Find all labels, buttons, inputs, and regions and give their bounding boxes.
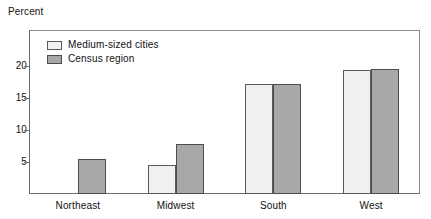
y-axis-tick-mark [24, 66, 30, 67]
y-axis-tick-mark [24, 130, 30, 131]
legend-item: Census region [47, 53, 159, 65]
bar [371, 69, 399, 194]
legend-swatch-icon [47, 41, 62, 50]
bar-chart-figure: Percent 5101520 NortheastMidwestSouthWes… [0, 0, 431, 219]
x-axis-category-label: West [322, 199, 420, 212]
bar [343, 70, 371, 194]
bar [148, 165, 176, 194]
legend-swatch-icon [47, 55, 62, 64]
x-axis-category-label: South [225, 199, 323, 212]
y-axis-title: Percent [8, 6, 44, 18]
legend-item-label: Census region [68, 53, 134, 65]
y-axis-tick-mark [24, 98, 30, 99]
x-axis-category-label: Midwest [127, 199, 225, 212]
y-axis-tick-label: 5 [0, 156, 27, 168]
x-axis-category-label: Northeast [29, 199, 127, 212]
bar [245, 84, 273, 194]
legend-item-label: Medium-sized cities [68, 39, 159, 51]
legend-item: Medium-sized cities [47, 39, 159, 51]
y-axis-tick-mark [24, 162, 30, 163]
y-axis-tick-label: 10 [0, 124, 27, 136]
y-axis-tick-label: 15 [0, 92, 27, 104]
bar [273, 84, 301, 194]
bar [176, 144, 204, 194]
bar [78, 159, 106, 194]
chart-legend: Medium-sized citiesCensus region [47, 39, 159, 67]
y-axis-tick-label: 20 [0, 60, 27, 72]
